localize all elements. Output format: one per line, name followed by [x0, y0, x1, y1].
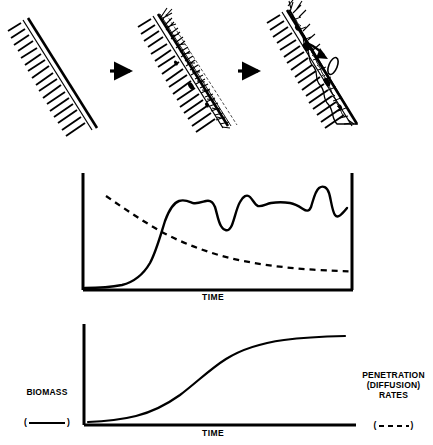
biomass-x-axis-label: TIME: [183, 292, 243, 302]
biomass-curve: [85, 187, 347, 288]
stage-3-thick-biofilm: [267, 0, 357, 128]
nutrient-recycling-chart: INTENSITY OF INTERNAL NUTRIENT RECYCLING: [0, 312, 433, 445]
biomass-penetration-chart: BIOMASS ( ) PENETRATION (DIFFUSION) RATE…: [0, 155, 433, 310]
recycling-x-axis-label: TIME: [183, 428, 243, 438]
recycling-chart-svg: [0, 312, 433, 445]
detached-cell-cluster: [326, 56, 341, 76]
stage-2-thin-biofilm: [138, 8, 237, 132]
biofilm-stage-row: [0, 0, 433, 150]
biofilm-stages-illustration: [0, 0, 433, 150]
stage-1-clean-substratum: [8, 18, 97, 136]
recycling-curve: [88, 336, 345, 422]
biomass-chart-svg: [0, 155, 433, 310]
biofilm-development-figure: BIOMASS ( ) PENETRATION (DIFFUSION) RATE…: [0, 0, 433, 445]
penetration-curve: [106, 196, 349, 271]
